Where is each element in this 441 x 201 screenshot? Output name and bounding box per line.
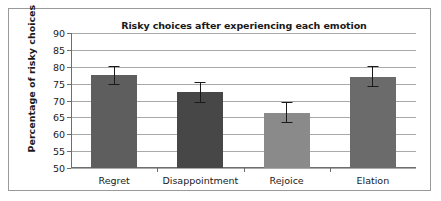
bar	[91, 75, 137, 168]
y-tick-label: 80	[53, 61, 65, 72]
x-tick-label: Elation	[357, 175, 390, 186]
x-tick-mark	[330, 168, 331, 172]
error-bar-cap	[367, 86, 378, 87]
y-axis-title: Percentage of risky choices	[26, 13, 37, 153]
error-bar-cap	[281, 122, 292, 123]
error-bar-stem	[200, 82, 201, 103]
bar	[177, 92, 223, 168]
plot-area: 908580757065605550 RegretDisappointmentR…	[71, 33, 416, 168]
error-bar-cap	[195, 102, 206, 103]
error-bar	[367, 66, 378, 86]
y-tick-mark	[67, 168, 71, 169]
bar-group	[244, 33, 330, 168]
y-tick-label: 60	[53, 129, 65, 140]
x-tick-label: Regret	[98, 175, 129, 186]
bar	[350, 77, 396, 168]
y-tick-label: 90	[53, 28, 65, 39]
y-tick-label: 65	[53, 112, 65, 123]
error-bar	[195, 82, 206, 103]
error-bar	[109, 66, 120, 85]
y-tick-label: 55	[53, 146, 65, 157]
error-bar-cap	[367, 66, 378, 67]
x-tick-label: Disappointment	[162, 175, 238, 186]
error-bar-cap	[195, 82, 206, 83]
bar-group	[157, 33, 243, 168]
error-bar-cap	[281, 102, 292, 103]
error-bar-stem	[372, 66, 373, 86]
error-bar	[281, 102, 292, 123]
x-tick-label: Rejoice	[270, 175, 304, 186]
error-bar-stem	[114, 66, 115, 85]
y-tick-label: 85	[53, 44, 65, 55]
x-tick-mark	[157, 168, 158, 172]
y-tick-label: 75	[53, 78, 65, 89]
bar-group	[330, 33, 416, 168]
error-bar-cap	[109, 84, 120, 85]
y-tick-label: 70	[53, 95, 65, 106]
chart-title: Risky choices after experiencing each em…	[69, 20, 419, 31]
bar-group	[71, 33, 157, 168]
x-tick-mark	[244, 168, 245, 172]
chart-figure: Risky choices after experiencing each em…	[8, 8, 431, 191]
y-tick-label: 50	[53, 163, 65, 174]
error-bar-stem	[286, 102, 287, 123]
error-bar-cap	[109, 66, 120, 67]
